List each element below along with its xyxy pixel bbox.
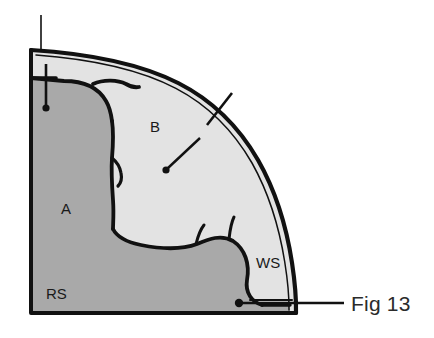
figure-caption: Fig 13 — [351, 292, 411, 315]
leader-b-dot-marker — [162, 166, 169, 173]
region-label-rs: RS — [46, 285, 67, 302]
quarter-section-diagram: A B RS WS Fig 13 — [0, 0, 434, 338]
boundary-vertical-ab — [112, 121, 114, 229]
region-label-b: B — [150, 118, 160, 135]
leader-bottom-dot-marker — [235, 299, 243, 307]
region-label-a: A — [61, 200, 71, 217]
region-label-ws: WS — [256, 254, 280, 271]
leader-top-dot-marker — [42, 104, 49, 111]
figure-container: A B RS WS Fig 13 — [0, 0, 434, 338]
